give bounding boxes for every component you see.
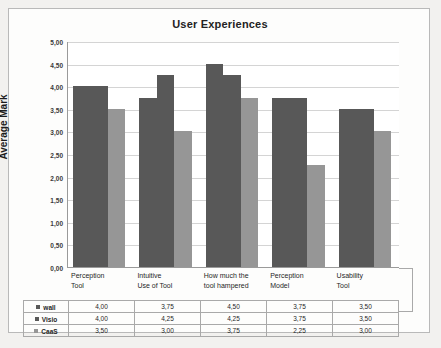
legend-label: Visio: [42, 315, 57, 322]
bar-visio-3: [223, 75, 241, 267]
table-cell-value: 3,50: [333, 313, 399, 325]
table-right-connector: [399, 268, 413, 312]
legend-swatch-icon: [35, 317, 39, 321]
y-tick-label: 0,00: [9, 265, 63, 272]
bar-visio-5: [356, 109, 374, 267]
table-cell-value: 2,25: [267, 325, 333, 337]
y-tick-label: 4,50: [9, 61, 63, 68]
bar-wall-5: [339, 109, 357, 267]
bar-visio-1: [90, 86, 108, 267]
table-cell-value: 4,00: [69, 313, 135, 325]
bar-wall-1: [73, 86, 91, 267]
category-label: PerceptionModel: [270, 271, 332, 291]
bar-group: [206, 42, 259, 267]
table-cell-value: 4,00: [69, 301, 135, 313]
chart-title: User Experiences: [9, 18, 431, 30]
bar-caas-5: [374, 131, 392, 267]
legend-label: CaaS: [41, 327, 57, 334]
table-cell-value: 3,50: [333, 301, 399, 313]
legend-entry-caas: CaaS: [24, 325, 69, 337]
y-tick-label: 3,50: [9, 106, 63, 113]
y-tick-label: 0,50: [9, 242, 63, 249]
table-cell-value: 4,25: [135, 313, 201, 325]
chart-frame: User Experiences Average Mark 5,004,504,…: [8, 8, 430, 333]
table-cell-value: 3,00: [135, 325, 201, 337]
table-row: Visio4,004,254,253,753,50: [24, 313, 399, 325]
category-label-line: Model: [270, 281, 332, 291]
bar-visio-2: [157, 75, 175, 267]
table-cell-value: 3,00: [333, 325, 399, 337]
category-label-line: Usability: [337, 271, 399, 281]
table-cell-value: 3,75: [135, 301, 201, 313]
bar-caas-3: [241, 98, 259, 268]
y-tick-label: 2,50: [9, 152, 63, 159]
bar-caas-2: [174, 131, 192, 267]
legend-entry-visio: Visio: [24, 313, 69, 325]
category-label-line: Intuitive: [137, 271, 199, 281]
category-label: IntuitiveUse of Tool: [137, 271, 199, 291]
y-tick-label: 4,00: [9, 84, 63, 91]
y-tick-label: 5,00: [9, 39, 63, 46]
bar-group: [272, 42, 325, 267]
table-row: wall4,003,754,503,753,50: [24, 301, 399, 313]
category-label-line: tool hampered: [204, 281, 266, 291]
category-label-line: Tool: [337, 281, 399, 291]
bar-wall-4: [272, 98, 290, 268]
category-label: PerceptionTool: [71, 271, 133, 291]
table-cell-value: 3,75: [201, 325, 267, 337]
table-cell-value: 3,75: [267, 313, 333, 325]
category-label-line: How much the: [204, 271, 266, 281]
y-tick-label: 3,00: [9, 129, 63, 136]
bar-group: [73, 42, 126, 267]
category-label-line: Perception: [270, 271, 332, 281]
y-tick-label: 2,00: [9, 174, 63, 181]
bar-caas-1: [108, 109, 126, 267]
legend-label: wall: [43, 303, 55, 310]
category-label-line: Use of Tool: [137, 281, 199, 291]
bar-caas-4: [307, 165, 325, 267]
category-label-line: Perception: [71, 271, 133, 281]
table-cell-value: 3,50: [69, 325, 135, 337]
y-axis-label: Average Mark: [0, 94, 9, 159]
table-cell-value: 3,75: [267, 301, 333, 313]
plot-area: [67, 42, 399, 268]
y-tick-label: 1,50: [9, 197, 63, 204]
bar-visio-4: [290, 98, 308, 268]
table-cell-value: 4,50: [201, 301, 267, 313]
table-row: CaaS3,503,003,752,253,00: [24, 325, 399, 337]
y-tick-label: 1,00: [9, 219, 63, 226]
bar-group: [339, 42, 392, 267]
table-cell-value: 4,25: [201, 313, 267, 325]
bar-wall-2: [139, 98, 157, 268]
bar-wall-3: [206, 64, 224, 267]
legend-entry-wall: wall: [24, 301, 69, 313]
category-label: How much thetool hampered: [204, 271, 266, 291]
category-label-line: Tool: [71, 281, 133, 291]
data-table: wall4,003,754,503,753,50Visio4,004,254,2…: [23, 300, 399, 337]
bar-group: [139, 42, 192, 267]
category-label: UsabilityTool: [337, 271, 399, 291]
legend-swatch-icon: [34, 329, 38, 333]
legend-swatch-icon: [36, 305, 40, 309]
